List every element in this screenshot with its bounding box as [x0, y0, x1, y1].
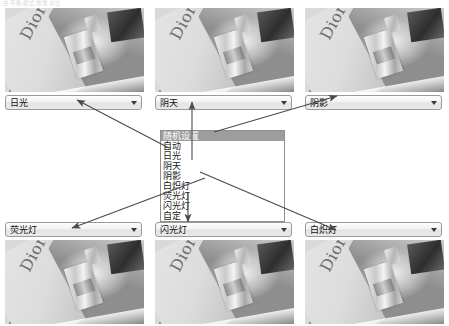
- dropdown-item[interactable]: 随机设置: [161, 131, 284, 141]
- combo-value-cloudy: 阴天: [160, 97, 178, 109]
- dropdown-item[interactable]: 白炽灯: [161, 181, 284, 191]
- dropdown-item[interactable]: 日光: [161, 151, 284, 161]
- dropdown-item[interactable]: 自定: [161, 211, 284, 221]
- combo-flash[interactable]: 闪光灯: [155, 222, 292, 237]
- combo-shade[interactable]: 阴影: [305, 95, 442, 110]
- sample-card-daylight: Dior 日光: [5, 8, 144, 110]
- dropdown-item[interactable]: 阴天: [161, 161, 284, 171]
- combo-cloudy[interactable]: 阴天: [155, 95, 292, 110]
- combo-incandescent[interactable]: 白炽灯: [305, 222, 442, 237]
- combo-value-shade: 阴影: [310, 97, 328, 109]
- sample-photo-cloudy: Dior: [155, 8, 294, 92]
- dropdown-item[interactable]: 自动: [161, 141, 284, 151]
- photo-dark-object: [257, 240, 294, 274]
- page-caption: 白平衡模式效果对比: [3, 0, 62, 7]
- photo-dark-object: [107, 8, 144, 42]
- photo-dark-object: [107, 240, 144, 274]
- chevron-down-icon[interactable]: [431, 228, 437, 232]
- sample-card-flash: 闪光灯 Dior: [155, 222, 294, 324]
- sample-photo-flash: Dior: [155, 240, 294, 324]
- sample-photo-shade: Dior: [305, 8, 444, 92]
- sample-photo-fluorescent: Dior: [5, 240, 144, 324]
- chevron-down-icon[interactable]: [431, 101, 437, 105]
- photo-dark-object: [407, 240, 444, 274]
- sample-card-shade: Dior 阴影: [305, 8, 444, 110]
- combo-fluorescent[interactable]: 荧光灯: [5, 222, 142, 237]
- dropdown-item[interactable]: 闪光灯: [161, 201, 284, 211]
- combo-value-fluorescent: 荧光灯: [10, 224, 37, 236]
- sample-card-fluorescent: 荧光灯 Dior: [5, 222, 144, 324]
- sample-card-incandescent: 白炽灯 Dior: [305, 222, 444, 324]
- chevron-down-icon[interactable]: [281, 101, 287, 105]
- combo-value-daylight: 日光: [10, 97, 28, 109]
- combo-value-flash: 闪光灯: [160, 224, 187, 236]
- white-balance-dropdown[interactable]: 随机设置自动日光阴天阴影白炽灯荧光灯闪光灯自定: [160, 130, 285, 222]
- combo-value-incandescent: 白炽灯: [310, 224, 337, 236]
- sample-card-cloudy: Dior 阴天: [155, 8, 294, 110]
- chevron-down-icon[interactable]: [281, 228, 287, 232]
- sample-photo-daylight: Dior: [5, 8, 144, 92]
- photo-dark-object: [407, 8, 444, 42]
- chevron-down-icon[interactable]: [131, 101, 137, 105]
- sample-photo-incandescent: Dior: [305, 240, 444, 324]
- dropdown-item[interactable]: 阴影: [161, 171, 284, 181]
- combo-daylight[interactable]: 日光: [5, 95, 142, 110]
- dropdown-item[interactable]: 荧光灯: [161, 191, 284, 201]
- chevron-down-icon[interactable]: [131, 228, 137, 232]
- photo-dark-object: [257, 8, 294, 42]
